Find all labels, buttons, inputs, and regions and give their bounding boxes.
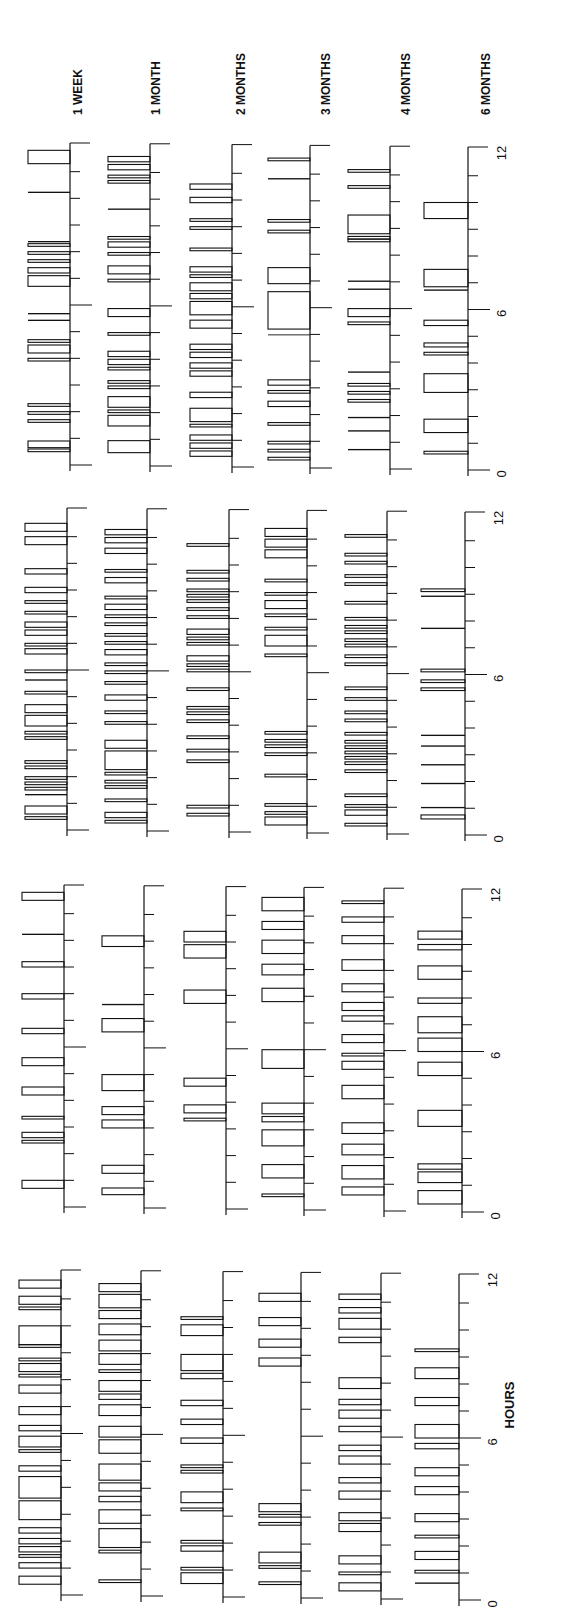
pulse [25, 787, 67, 790]
pulse [105, 711, 147, 714]
pulse [268, 334, 310, 335]
pulse [105, 820, 147, 823]
pulse [108, 397, 150, 408]
pulse [105, 780, 147, 783]
pulse [418, 1191, 462, 1204]
pulse [190, 392, 232, 397]
pulse [184, 1118, 226, 1121]
pulse [19, 1547, 61, 1552]
pulse [345, 553, 387, 556]
tick-6-label: 6 [491, 675, 506, 682]
pulse [105, 537, 147, 542]
pulse [190, 363, 232, 368]
pulse [265, 635, 307, 646]
pulse [28, 345, 70, 353]
pulse [187, 629, 229, 634]
pulse [268, 292, 310, 329]
pulse [99, 1580, 141, 1583]
pulse [19, 1326, 61, 1345]
pulse [25, 601, 67, 604]
pulse [342, 1035, 384, 1043]
pulse [268, 178, 310, 179]
trace [99, 1271, 163, 1602]
pulse [268, 423, 310, 426]
pulse [22, 934, 64, 935]
panel: 1260 [22, 885, 503, 1220]
pulse [415, 1349, 459, 1352]
pulse [190, 267, 232, 272]
pulse [25, 611, 67, 614]
pulse [28, 340, 70, 343]
pulse [19, 1358, 61, 1361]
pulse [105, 578, 147, 583]
pulse [342, 1053, 384, 1056]
pulse [28, 276, 70, 287]
pulse [190, 443, 232, 448]
pulse [268, 230, 310, 233]
pulse [345, 655, 387, 658]
pulse [339, 1318, 381, 1329]
trace [28, 143, 92, 471]
pulse [262, 1130, 304, 1146]
pulse [181, 1354, 223, 1370]
pulse [345, 617, 387, 620]
pulse [424, 320, 468, 325]
pulse [339, 1572, 381, 1575]
trace [190, 145, 254, 473]
pulse [105, 812, 147, 817]
pulse [345, 719, 387, 722]
pulse [345, 756, 387, 759]
pulse [187, 570, 229, 573]
pulse [190, 352, 232, 357]
pulse [345, 575, 387, 578]
pulse [105, 604, 147, 609]
pulse [25, 761, 67, 764]
pulse [181, 1373, 223, 1378]
pulse [424, 374, 468, 393]
pulse [187, 736, 229, 739]
pulse [108, 209, 150, 210]
pulse [99, 1426, 141, 1437]
pulse [19, 1385, 61, 1393]
pulse [184, 931, 226, 942]
pulse [265, 579, 307, 582]
pulse [421, 669, 465, 672]
pulse [108, 309, 150, 317]
pulse [105, 799, 147, 802]
pulse [25, 523, 67, 531]
pulse [102, 1165, 144, 1173]
pulse [105, 695, 147, 700]
pulse [259, 1504, 301, 1512]
tick-12-label: 12 [491, 511, 506, 525]
pulse [19, 1307, 61, 1310]
pulse [418, 1017, 462, 1033]
pulse [102, 1004, 144, 1005]
trace [345, 511, 409, 840]
pulse [339, 1491, 381, 1499]
axis-labels: HOURS [502, 1381, 517, 1428]
pulse [108, 333, 150, 336]
pulse [268, 449, 310, 452]
pulse [28, 150, 70, 163]
trace [339, 1273, 403, 1605]
pulse [99, 1529, 141, 1548]
pulse [184, 945, 226, 958]
pulse [421, 764, 465, 765]
pulse [181, 1567, 223, 1570]
pulse [418, 1172, 462, 1183]
pulse [345, 687, 387, 690]
pulse [424, 419, 468, 432]
pulse [421, 628, 465, 629]
tick-12-label: 12 [488, 888, 503, 902]
pulse [190, 408, 232, 421]
pulse [190, 219, 232, 222]
trace [348, 146, 412, 475]
pulse [415, 1443, 459, 1448]
pulse [19, 1436, 61, 1447]
pulse [421, 688, 465, 691]
pulse [99, 1483, 141, 1491]
pulse [415, 1425, 459, 1439]
pulse [348, 430, 390, 431]
series-labels: 1 WEEK1 MONTH2 MONTHS3 MONTHS4 MONTHS6 M… [71, 53, 493, 115]
pulse [345, 644, 387, 647]
